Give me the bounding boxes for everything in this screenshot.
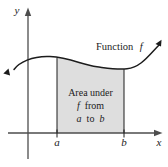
tick-label-b: b — [121, 136, 127, 148]
y-axis-arrowhead-icon — [25, 8, 31, 17]
function-curve-label: Function f — [96, 36, 145, 53]
tick-label-a: a — [54, 136, 60, 148]
area-caption-line2-rest: from — [85, 100, 105, 111]
area-caption-line3-b: b — [99, 113, 104, 124]
x-axis-label: x — [156, 136, 162, 148]
figure-canvas: y x a b Function f Area under f from a t… — [0, 0, 168, 167]
curve-left-arrowhead-icon — [3, 67, 12, 76]
y-axis-label: y — [14, 4, 20, 16]
area-under-curve-figure: y x a b Function f Area under f from a t… — [0, 0, 168, 167]
area-caption-line3-a: a — [77, 113, 82, 124]
area-caption-line3-mid: to — [87, 113, 95, 124]
function-curve-label-word: Function — [96, 41, 134, 52]
area-caption-line2: f from — [77, 100, 104, 111]
area-caption-line3: a to b — [77, 113, 105, 124]
area-caption-line1: Area under — [68, 87, 113, 98]
area-caption-line2-f: f — [77, 100, 81, 111]
function-curve-label-f: f — [140, 41, 145, 52]
